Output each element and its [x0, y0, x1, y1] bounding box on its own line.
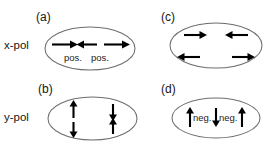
panel-label-a: (a)	[36, 10, 51, 24]
panel-d-charge-label-1: neg.	[193, 112, 212, 123]
panel-b-arrow-bottom-right-up	[109, 118, 117, 134]
panel-a-charge-label-2: pos.	[91, 52, 109, 63]
row-label-y-pol: y-pol	[4, 111, 29, 123]
panel-b-arrow-bottom-left-down	[70, 122, 78, 138]
panel-a-ellipse	[45, 27, 135, 70]
polarization-mode-figure: x-pol y-pol (a) pos. pos.	[0, 0, 271, 149]
panel-b-arrow-top-left-up	[70, 100, 78, 118]
panel-b-ellipse	[48, 97, 137, 140]
panel-c-arrow-top-left-right	[184, 31, 207, 39]
panel-b: (b)	[38, 82, 137, 140]
panel-d-arrow-right-up	[238, 107, 246, 127]
panel-a: (a) pos. pos.	[36, 10, 135, 70]
panel-c-arrow-top-right-left	[225, 31, 248, 39]
panel-a-arrow-right-right	[104, 41, 130, 49]
panel-label-b: (b)	[38, 82, 53, 96]
row-label-x-pol: x-pol	[4, 39, 29, 51]
panel-d: (d) neg. neg.	[161, 82, 260, 138]
panel-a-charge-label-1: pos.	[64, 52, 82, 63]
panel-label-c: (c)	[161, 10, 175, 24]
panel-label-d: (d)	[161, 82, 176, 96]
panel-d-charge-label-2: neg.	[219, 112, 238, 123]
panel-a-arrow-left-right	[52, 41, 78, 49]
panel-c-ellipse	[170, 23, 262, 68]
panel-a-arrow-center-left	[77, 41, 98, 49]
panel-c: (c)	[161, 10, 262, 68]
